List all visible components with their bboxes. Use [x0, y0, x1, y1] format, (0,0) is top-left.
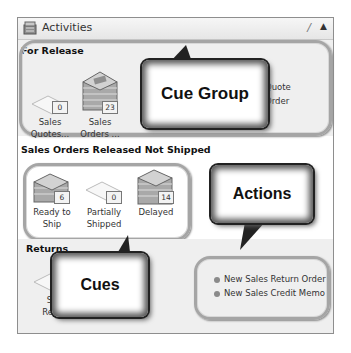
callout-actions: Actions — [211, 165, 313, 223]
callout-cues: Cues — [52, 253, 148, 317]
callout-cue-group: Cue Group — [142, 60, 268, 128]
